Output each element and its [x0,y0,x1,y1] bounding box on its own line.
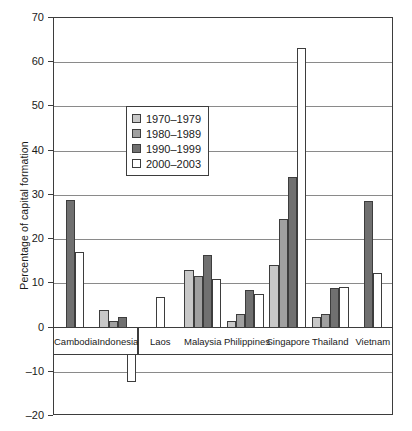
category-label-singapore: Singapore [267,328,310,356]
y-tick-mark-10 [48,282,53,283]
bar-malaysia-1990-1999 [203,255,212,328]
category-label-indonesia: Indonesia [97,328,140,356]
y-tick-mark-40 [48,150,53,151]
y-tick-mark-50 [48,105,53,106]
y-tick-label-0: 0 [0,321,44,333]
bar-malaysia-1970-1979 [184,270,193,327]
y-tick-label-50: 50 [0,99,44,111]
y-tick-label-40: 40 [0,144,44,156]
bar-cambodia-2000-2003 [75,252,84,327]
y-tick-mark--20 [48,415,53,416]
bar-singapore-1970-1979 [269,265,278,328]
bar-laos-2000-2003 [156,297,165,328]
legend: 1970–19791980–19891990–19992000–2003 [126,106,209,176]
bar-vietnam-1990-1999 [364,201,373,328]
bar-thailand-1980-1989 [321,314,330,328]
bar-cambodia-1990-1999 [66,200,75,328]
legend-label: 1990–1999 [146,143,201,155]
bar-chart: Percentage of capital formation 70605040… [0,0,412,431]
y-tick-label--10: –10 [0,365,44,377]
bar-singapore-1990-1999 [288,177,297,327]
legend-item-2000-2003: 2000–2003 [132,156,201,171]
legend-label: 2000–2003 [146,158,201,170]
legend-label: 1970–1979 [146,113,201,125]
y-tick-mark-20 [48,238,53,239]
bar-thailand-1990-1999 [330,288,339,328]
label-band-1: LaosMalaysiaPhilippinesSingaporeThailand… [138,327,393,355]
y-tick-label-70: 70 [0,11,44,23]
bar-singapore-2000-2003 [297,48,306,327]
category-label-vietnam: Vietnam [352,328,395,356]
legend-label: 1980–1989 [146,128,201,140]
category-label-laos: Laos [139,328,182,356]
bar-philippines-1990-1999 [245,290,254,328]
legend-item-1980-1989: 1980–1989 [132,126,201,141]
label-band-0: CambodiaIndonesia [53,327,138,355]
category-label-thailand: Thailand [309,328,352,356]
bar-malaysia-2000-2003 [212,279,221,328]
bar-vietnam-2000-2003 [373,273,382,328]
legend-swatch-icon-2000-2003 [132,159,141,168]
y-tick-mark-30 [48,194,53,195]
bar-indonesia-1970-1979 [99,310,108,328]
y-tick-label-10: 10 [0,276,44,288]
y-tick-label-20: 20 [0,232,44,244]
y-tick-mark-70 [48,17,53,18]
y-tick-mark-60 [48,61,53,62]
legend-item-1990-1999: 1990–1999 [132,141,201,156]
bar-malaysia-1980-1989 [194,276,203,327]
legend-swatch-icon-1980-1989 [132,129,141,138]
category-label-malaysia: Malaysia [182,328,225,356]
y-tick-label--20: –20 [0,409,44,421]
category-label-philippines: Philippines [224,328,267,356]
legend-swatch-icon-1970-1979 [132,114,141,123]
bar-philippines-1980-1989 [236,314,245,327]
legend-swatch-icon-1990-1999 [132,144,141,153]
y-tick-label-30: 30 [0,188,44,200]
y-tick-label-60: 60 [0,55,44,67]
bar-singapore-1980-1989 [279,219,288,327]
category-label-cambodia: Cambodia [54,328,97,356]
bar-philippines-2000-2003 [254,294,263,327]
y-tick-mark--10 [48,371,53,372]
bar-thailand-2000-2003 [339,287,348,327]
legend-item-1970-1979: 1970–1979 [132,111,201,126]
